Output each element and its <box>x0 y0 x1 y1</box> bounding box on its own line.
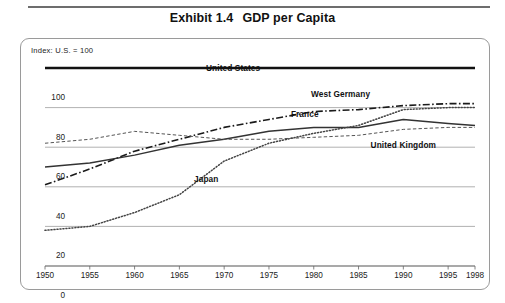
x-tick-label: 1960 <box>125 271 143 280</box>
x-tick-label: 1955 <box>81 271 99 280</box>
chart-canvas <box>45 68 475 266</box>
x-tick-label: 1995 <box>439 271 457 280</box>
series-label-united-states: United States <box>206 63 260 73</box>
x-tick-label: 1980 <box>305 271 323 280</box>
x-tick-label: 1950 <box>36 271 54 280</box>
series-line-japan <box>45 108 475 231</box>
x-tick-label: 1990 <box>394 271 412 280</box>
series-label-west-germany: West Germany <box>311 89 370 99</box>
page-title: Exhibit 1.4GDP per Capita <box>0 11 505 25</box>
index-note: Index: U.S. = 100 <box>31 46 93 55</box>
title-top-rule <box>28 6 490 8</box>
x-tick-label: 1985 <box>349 271 367 280</box>
x-tick-label: 1970 <box>215 271 233 280</box>
y-tick-label: 0 <box>60 291 65 300</box>
exhibit-title-text: GDP per Capita <box>242 11 335 25</box>
exhibit-number: Exhibit 1.4 <box>170 11 234 25</box>
plot-area: 020406080100 United StatesWest GermanyFr… <box>45 68 475 266</box>
series-label-united-kingdom: United Kingdom <box>371 140 436 150</box>
series-label-japan: Japan <box>194 174 218 184</box>
chart-card: Index: U.S. = 100 020406080100 United St… <box>20 38 490 290</box>
x-tick-label: 1998 <box>466 271 484 280</box>
x-tick-label: 1965 <box>170 271 188 280</box>
exhibit-figure: Exhibit 1.4GDP per Capita Index: U.S. = … <box>0 0 505 303</box>
x-tick-label: 1975 <box>260 271 278 280</box>
series-label-france: France <box>291 109 319 119</box>
x-axis-labels: 1950195519601965197019751980198519901995… <box>45 271 475 285</box>
